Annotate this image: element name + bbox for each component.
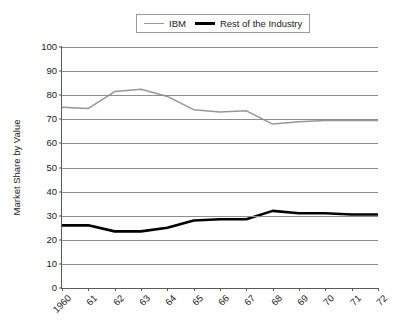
- x-tick-mark: [220, 288, 221, 291]
- y-tick-mark: [59, 143, 62, 144]
- y-axis-title: Market Share by Value: [9, 47, 23, 288]
- y-tick-label: 40: [46, 187, 57, 197]
- legend-entry-rest-of-the-industry: Rest of the Industry: [195, 19, 302, 29]
- x-tick-mark: [273, 288, 274, 291]
- gridline: [62, 192, 378, 193]
- legend-label-ibm: IBM: [169, 19, 186, 29]
- x-tick-label: 62: [111, 293, 125, 307]
- x-tick-mark: [325, 288, 326, 291]
- y-tick-label: 80: [46, 90, 57, 100]
- legend-label-rest-of-the-industry: Rest of the Industry: [220, 19, 302, 29]
- y-tick-label: 70: [46, 115, 57, 125]
- y-tick-mark: [59, 191, 62, 192]
- y-tick-mark: [59, 239, 62, 240]
- y-tick-mark: [59, 71, 62, 72]
- legend-line-swatch-ibm: [144, 23, 164, 24]
- gridline: [62, 47, 378, 48]
- y-tick-label: 90: [46, 66, 57, 76]
- y-tick-mark: [59, 95, 62, 96]
- y-tick-label: 60: [46, 139, 57, 149]
- legend-line-swatch-rest-of-the-industry: [195, 22, 215, 25]
- x-tick-mark: [352, 288, 353, 291]
- plot-area: 0102030405060708090100: [62, 47, 378, 288]
- x-tick-mark: [62, 288, 63, 291]
- x-tick-mark: [194, 288, 195, 291]
- y-tick-label: 10: [46, 259, 57, 269]
- y-tick-mark: [59, 167, 62, 168]
- y-tick-label: 0: [52, 283, 57, 293]
- y-tick-mark: [59, 47, 62, 48]
- x-tick-label: 67: [243, 293, 257, 307]
- y-tick-label: 50: [46, 163, 57, 173]
- x-tick-label: 66: [217, 293, 231, 307]
- y-tick-label: 20: [46, 235, 57, 245]
- y-tick-label: 30: [46, 211, 57, 221]
- x-tick-label: 68: [269, 293, 283, 307]
- gridline: [62, 240, 378, 241]
- line-chart: IBM Rest of the Industry Market Share by…: [0, 0, 405, 329]
- x-tick-label: 71: [348, 293, 362, 307]
- x-tick-label: 69: [296, 293, 310, 307]
- y-tick-mark: [59, 263, 62, 264]
- x-tick-label: 64: [164, 293, 178, 307]
- gridline: [62, 143, 378, 144]
- series-line-rest-of-the-industry: [62, 211, 378, 231]
- x-tick-label: 70: [322, 293, 336, 307]
- x-tick-mark: [141, 288, 142, 291]
- x-tick-label: 1960: [51, 293, 73, 315]
- x-tick-mark: [299, 288, 300, 291]
- y-tick-mark: [59, 119, 62, 120]
- gridline: [62, 168, 378, 169]
- x-tick-mark: [378, 288, 379, 291]
- x-tick-label: 63: [138, 293, 152, 307]
- gridline: [62, 216, 378, 217]
- x-tick-label: 65: [190, 293, 204, 307]
- x-tick-label: 72: [375, 293, 389, 307]
- x-tick-mark: [115, 288, 116, 291]
- gridline: [62, 71, 378, 72]
- legend-entry-ibm: IBM: [144, 19, 186, 29]
- x-tick-label: 61: [85, 293, 99, 307]
- x-tick-mark: [246, 288, 247, 291]
- x-tick-mark: [88, 288, 89, 291]
- y-tick-mark: [59, 215, 62, 216]
- y-tick-label: 100: [41, 42, 57, 52]
- chart-legend: IBM Rest of the Industry: [136, 14, 310, 33]
- gridline: [62, 95, 378, 96]
- x-tick-mark: [167, 288, 168, 291]
- gridline: [62, 119, 378, 120]
- gridline: [62, 264, 378, 265]
